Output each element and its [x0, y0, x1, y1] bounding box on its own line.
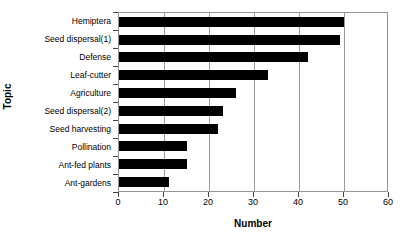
bar [119, 159, 187, 169]
bar-slot [119, 120, 387, 138]
bar-slot [119, 173, 387, 191]
category-label: Hemiptera [14, 12, 115, 30]
x-axis-tick-label: 0 [115, 198, 120, 207]
bar-slot [119, 84, 387, 102]
bar [119, 141, 187, 151]
x-axis-tick-label: 20 [203, 198, 213, 207]
category-label: Leaf-cutter [14, 66, 115, 84]
bar-slot [119, 49, 387, 67]
category-label: Seed dispersal(1) [14, 30, 115, 48]
category-label: Agriculture [14, 84, 115, 102]
bar-chart: Topic HemipteraSeed dispersal(1)DefenseL… [0, 0, 403, 249]
category-label: Defense [14, 48, 115, 66]
bar-slot [119, 13, 387, 31]
bar-slot [119, 66, 387, 84]
x-axis-tick-label: 40 [293, 198, 303, 207]
category-label: Pollination [14, 138, 115, 156]
category-label: Ant-fed plants [14, 156, 115, 174]
bar-slot [119, 155, 387, 173]
bar [119, 35, 340, 45]
bar [119, 124, 218, 134]
bar [119, 17, 344, 27]
bar [119, 70, 268, 80]
x-axis-tick-label: 50 [338, 198, 348, 207]
bar-slot [119, 138, 387, 156]
x-axis-title: Number [118, 218, 388, 229]
x-axis-tick-label: 60 [383, 198, 393, 207]
bar [119, 106, 223, 116]
category-axis-labels: HemipteraSeed dispersal(1)DefenseLeaf-cu… [14, 12, 115, 192]
x-axis-tick-label: 30 [248, 198, 258, 207]
plot-area [118, 12, 388, 192]
bar-slot [119, 102, 387, 120]
bar-slot [119, 31, 387, 49]
bar [119, 88, 236, 98]
bar [119, 177, 169, 187]
y-axis-title-label: Topic [3, 83, 14, 109]
category-label: Seed harvesting [14, 120, 115, 138]
bars-layer [119, 13, 387, 191]
category-label: Seed dispersal(2) [14, 102, 115, 120]
x-axis-tick-labels: 0102030405060 [118, 198, 388, 212]
x-axis-tick-label: 10 [158, 198, 168, 207]
bar [119, 52, 308, 62]
category-label: Ant-gardens [14, 174, 115, 192]
